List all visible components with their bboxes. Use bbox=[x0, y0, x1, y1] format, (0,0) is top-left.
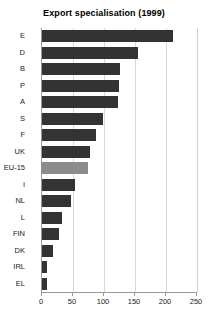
category-label-fin: FIN bbox=[0, 226, 25, 243]
gridline-250 bbox=[197, 28, 198, 292]
bar-eu-15 bbox=[42, 162, 88, 174]
bar-row: I bbox=[42, 177, 197, 194]
bar-row: A bbox=[42, 94, 197, 111]
bar-b bbox=[42, 63, 120, 75]
x-tick-label-100: 100 bbox=[97, 297, 110, 306]
category-label-p: P bbox=[0, 78, 25, 95]
bar-i bbox=[42, 179, 75, 191]
category-label-nl: NL bbox=[0, 193, 25, 210]
category-label-i: I bbox=[0, 177, 25, 194]
bar-l bbox=[42, 212, 62, 224]
bar-row: S bbox=[42, 111, 197, 128]
export-specialisation-chart: Export specialisation (1999) EDBPASFUKEU… bbox=[0, 0, 208, 324]
bar-row: IRL bbox=[42, 259, 197, 276]
category-label-f: F bbox=[0, 127, 25, 144]
x-tick-label-200: 200 bbox=[159, 297, 172, 306]
category-label-dk: DK bbox=[0, 243, 25, 260]
bar-fin bbox=[42, 228, 59, 240]
bar-s bbox=[42, 113, 103, 125]
bar-p bbox=[42, 80, 119, 92]
x-tick-50 bbox=[72, 293, 73, 296]
x-tick-label-150: 150 bbox=[128, 297, 141, 306]
x-tick-label-50: 50 bbox=[68, 297, 76, 306]
bar-d bbox=[42, 47, 138, 59]
category-label-irl: IRL bbox=[0, 259, 25, 276]
x-axis: 050100150200250 bbox=[41, 293, 197, 313]
x-tick-150 bbox=[134, 293, 135, 296]
x-tick-label-0: 0 bbox=[39, 297, 43, 306]
bar-row: UK bbox=[42, 144, 197, 161]
bar-nl bbox=[42, 195, 71, 207]
bar-row: D bbox=[42, 45, 197, 62]
bar-row: FIN bbox=[42, 226, 197, 243]
category-label-b: B bbox=[0, 61, 25, 78]
bar-a bbox=[42, 96, 118, 108]
category-label-a: A bbox=[0, 94, 25, 111]
bar-e bbox=[42, 30, 173, 42]
bar-row: EL bbox=[42, 276, 197, 293]
category-label-s: S bbox=[0, 111, 25, 128]
bar-row: EU-15 bbox=[42, 160, 197, 177]
x-tick-250 bbox=[196, 293, 197, 296]
bar-row: DK bbox=[42, 243, 197, 260]
category-label-eu-15: EU-15 bbox=[0, 160, 25, 177]
category-label-uk: UK bbox=[0, 144, 25, 161]
category-label-e: E bbox=[0, 28, 25, 45]
bars-layer: EDBPASFUKEU-15INLLFINDKIRLEL bbox=[42, 28, 197, 292]
bar-uk bbox=[42, 146, 90, 158]
bar-row: P bbox=[42, 78, 197, 95]
plot-area: EDBPASFUKEU-15INLLFINDKIRLEL bbox=[41, 28, 197, 293]
category-label-el: EL bbox=[0, 276, 25, 293]
bar-dk bbox=[42, 245, 53, 257]
bar-row: L bbox=[42, 210, 197, 227]
bar-el bbox=[42, 278, 47, 290]
x-tick-100 bbox=[103, 293, 104, 296]
bar-row: E bbox=[42, 28, 197, 45]
x-tick-0 bbox=[41, 293, 42, 296]
category-label-d: D bbox=[0, 45, 25, 62]
bar-row: F bbox=[42, 127, 197, 144]
bar-f bbox=[42, 129, 96, 141]
bar-row: B bbox=[42, 61, 197, 78]
bar-irl bbox=[42, 261, 47, 273]
x-tick-label-250: 250 bbox=[190, 297, 203, 306]
chart-title: Export specialisation (1999) bbox=[0, 8, 208, 18]
bar-row: NL bbox=[42, 193, 197, 210]
x-tick-200 bbox=[165, 293, 166, 296]
category-label-l: L bbox=[0, 210, 25, 227]
